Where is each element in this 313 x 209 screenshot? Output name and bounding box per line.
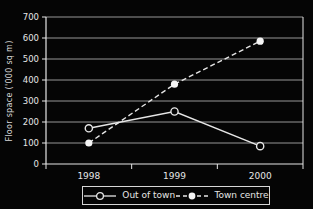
town-centre-line xyxy=(89,41,260,143)
out-of-town-marker xyxy=(257,143,264,150)
y-tick-label: 300 xyxy=(23,96,39,106)
town-centre-marker xyxy=(257,38,264,45)
x-tick-label: 1998 xyxy=(77,171,100,181)
y-tick-label: 100 xyxy=(23,138,39,148)
y-tick-label: 600 xyxy=(23,33,39,43)
y-tick-label: 0 xyxy=(34,159,39,169)
legend-entry-town-centre: Town centre xyxy=(175,191,268,201)
plot-area: 0100200300400500600700199819992000 xyxy=(0,0,313,209)
x-tick-label: 2000 xyxy=(249,171,272,181)
legend-label-town-centre: Town centre xyxy=(214,191,268,200)
y-tick-label: 200 xyxy=(23,117,39,127)
out-of-town-line xyxy=(89,112,260,147)
legend-label-out-of-town: Out of town xyxy=(122,191,175,200)
y-tick-label: 700 xyxy=(23,12,39,22)
y-tick-label: 400 xyxy=(23,75,39,85)
town-centre-marker xyxy=(85,139,92,146)
town-centre-marker xyxy=(171,81,178,88)
line-chart-figure: 0100200300400500600700199819992000 Floor… xyxy=(0,0,313,209)
legend-entry-out-of-town: Out of town xyxy=(83,191,175,201)
x-tick-label: 1999 xyxy=(163,171,186,181)
out-of-town-marker xyxy=(85,125,92,132)
y-axis-title: Floor space ('000 sq m) xyxy=(5,40,14,141)
out-of-town-line-sample-icon xyxy=(83,191,117,201)
out-of-town-marker xyxy=(171,108,178,115)
legend: Out of town Town centre xyxy=(82,186,270,205)
y-tick-label: 500 xyxy=(23,54,39,64)
town-centre-line-sample-icon xyxy=(175,191,209,201)
